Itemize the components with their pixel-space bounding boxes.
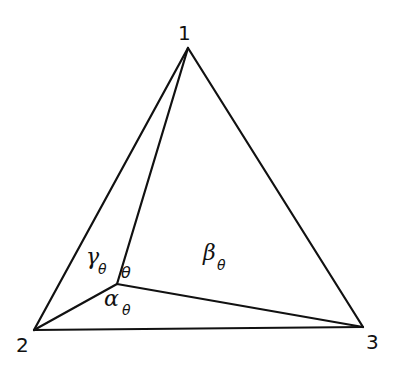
edge-theta-3 — [117, 284, 363, 327]
alpha-subscript: θ — [122, 302, 131, 318]
edge-1-3 — [188, 48, 363, 327]
edge-theta-1 — [117, 48, 188, 284]
region-label-gamma: γ θ — [86, 244, 107, 277]
interior-point-label: θ — [121, 263, 131, 282]
gamma-subscript: θ — [98, 261, 107, 277]
triangle-diagram: 1 2 3 θ γ θ β θ α θ — [0, 0, 400, 370]
beta-symbol: β — [202, 240, 216, 265]
vertex-label-2: 2 — [16, 333, 29, 357]
vertex-label-3: 3 — [366, 330, 379, 354]
beta-subscript: θ — [217, 257, 226, 273]
edge-2-3 — [34, 327, 363, 330]
region-label-alpha: α θ — [104, 286, 131, 318]
vertex-label-1: 1 — [178, 21, 191, 45]
region-label-beta: β θ — [202, 240, 226, 273]
alpha-symbol: α — [104, 286, 119, 311]
